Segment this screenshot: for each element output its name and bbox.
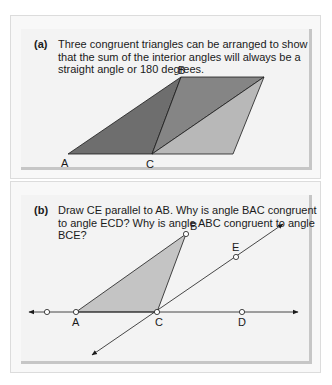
point-a xyxy=(73,309,78,314)
point-label-b: B xyxy=(190,220,197,232)
point-label-a: A xyxy=(72,316,80,328)
point-b xyxy=(183,231,188,236)
point-label-e: E xyxy=(232,241,239,253)
triangle-abc xyxy=(76,234,186,312)
point-c xyxy=(154,309,159,314)
point-d xyxy=(239,309,244,314)
point-label-d: D xyxy=(238,316,246,328)
point-left xyxy=(44,309,49,314)
point-e xyxy=(233,254,238,259)
point-label-a: A xyxy=(61,157,69,169)
three-triangles-figure: A B C xyxy=(61,64,264,170)
point-label-b: B xyxy=(178,64,185,76)
point-label-c: C xyxy=(146,158,154,170)
point-label-c: C xyxy=(155,316,163,328)
geometry-figures: A B C A B C D E xyxy=(0,0,332,385)
parallel-line-figure: A B C D E xyxy=(29,220,298,355)
